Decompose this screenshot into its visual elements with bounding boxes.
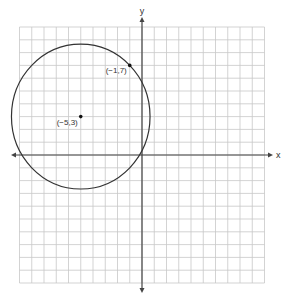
arrow-right-icon <box>268 153 273 158</box>
circle-point <box>128 64 132 68</box>
x-axis-label: x <box>276 150 281 160</box>
center-point-label: (−5,3) <box>57 118 78 127</box>
circle-point-label: (−1,7) <box>106 66 127 75</box>
y-axis-label: y <box>140 6 145 16</box>
arrow-up-icon <box>140 17 145 22</box>
axes <box>11 17 273 293</box>
arrow-left-icon <box>11 153 16 158</box>
arrow-down-icon <box>140 288 145 293</box>
center-point <box>79 115 83 119</box>
coordinate-plane: (−5,3) (−1,7) x y <box>0 0 291 302</box>
